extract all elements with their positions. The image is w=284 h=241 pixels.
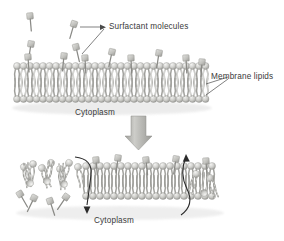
label-surfactant-molecules: Surfactant molecules <box>109 22 188 31</box>
surfactant-leader-lines <box>80 25 106 55</box>
outer-leaflet-top <box>14 63 210 87</box>
panel-bottom <box>16 154 224 220</box>
label-cytoplasm-bottom: Cytoplasm <box>94 216 134 225</box>
label-membrane-lipids: Membrane lipids <box>211 72 273 81</box>
free-surfactant-molecules <box>25 13 82 63</box>
label-cytoplasm-top: Cytoplasm <box>75 108 115 117</box>
inner-leaflet-top <box>14 79 210 103</box>
inner-leaflet-bottom <box>83 176 216 200</box>
figure-root: Surfactant molecules Membrane lipids Cyt… <box>0 0 284 241</box>
bilayer-top <box>14 63 210 103</box>
diagram-canvas <box>0 0 284 241</box>
transition-arrow <box>125 116 152 150</box>
